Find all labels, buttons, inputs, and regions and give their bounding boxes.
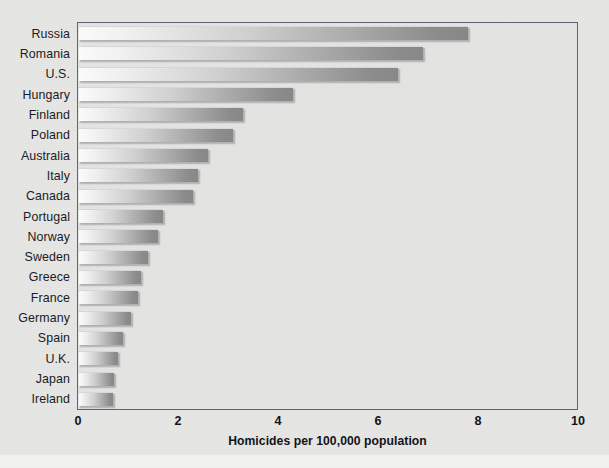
bar-germany <box>78 311 131 325</box>
y-axis-label-portugal: Portugal <box>0 210 70 224</box>
bar-series <box>78 23 578 409</box>
bar-row <box>78 186 578 206</box>
bar-row <box>78 206 578 226</box>
bar-row <box>78 368 578 388</box>
bar-romania <box>78 46 423 60</box>
x-axis-tick-labels: 0246810 <box>0 414 609 432</box>
y-axis-label-greece: Greece <box>0 270 70 284</box>
bar-greece <box>78 270 141 284</box>
bar-finland <box>78 107 243 121</box>
bar-row <box>78 328 578 348</box>
bar-australia <box>78 148 208 162</box>
y-axis-label-poland: Poland <box>0 128 70 142</box>
y-axis-label-u-k: U.K. <box>0 352 70 366</box>
bar-ireland <box>78 392 113 406</box>
bar-row <box>78 125 578 145</box>
bar-row <box>78 104 578 124</box>
bar-row <box>78 165 578 185</box>
y-axis-label-italy: Italy <box>0 169 70 183</box>
y-axis-label-sweden: Sweden <box>0 250 70 264</box>
bar-japan <box>78 372 114 386</box>
bar-row <box>78 64 578 84</box>
bar-row <box>78 348 578 368</box>
y-axis-label-finland: Finland <box>0 108 70 122</box>
bar-italy <box>78 168 198 182</box>
bar-spain <box>78 331 123 345</box>
y-axis-label-spain: Spain <box>0 331 70 345</box>
y-axis-label-canada: Canada <box>0 189 70 203</box>
y-axis-label-russia: Russia <box>0 27 70 41</box>
x-axis-title: Homicides per 100,000 population <box>77 434 578 448</box>
bar-sweden <box>78 250 148 264</box>
bar-norway <box>78 229 158 243</box>
bar-row <box>78 267 578 287</box>
x-tick-0: 0 <box>74 414 81 428</box>
bar-row <box>78 307 578 327</box>
bar-row <box>78 226 578 246</box>
bar-row <box>78 389 578 409</box>
page-bottom-strip <box>0 455 609 468</box>
y-axis-label-u-s: U.S. <box>0 67 70 81</box>
y-axis-label-japan: Japan <box>0 372 70 386</box>
y-axis-label-hungary: Hungary <box>0 88 70 102</box>
bar-row <box>78 84 578 104</box>
bar-canada <box>78 189 193 203</box>
bar-row <box>78 43 578 63</box>
bar-u-s <box>78 67 398 81</box>
y-axis-label-australia: Australia <box>0 149 70 163</box>
y-axis-label-ireland: Ireland <box>0 392 70 406</box>
x-tick-4: 4 <box>274 414 281 428</box>
bar-poland <box>78 128 233 142</box>
bar-france <box>78 290 138 304</box>
bar-row <box>78 246 578 266</box>
bar-hungary <box>78 87 293 101</box>
y-axis-label-norway: Norway <box>0 230 70 244</box>
bar-row <box>78 287 578 307</box>
y-axis-label-romania: Romania <box>0 47 70 61</box>
x-tick-8: 8 <box>474 414 481 428</box>
bar-russia <box>78 26 468 40</box>
bar-row <box>78 23 578 43</box>
bar-portugal <box>78 209 163 223</box>
x-tick-6: 6 <box>374 414 381 428</box>
y-axis-label-france: France <box>0 291 70 305</box>
chart-page: RussiaRomaniaU.S.HungaryFinlandPolandAus… <box>0 0 609 468</box>
y-axis-label-germany: Germany <box>0 311 70 325</box>
bar-u-k <box>78 351 118 365</box>
y-axis-category-labels: RussiaRomaniaU.S.HungaryFinlandPolandAus… <box>0 23 70 409</box>
bar-row <box>78 145 578 165</box>
x-tick-10: 10 <box>571 414 585 428</box>
x-tick-2: 2 <box>174 414 181 428</box>
